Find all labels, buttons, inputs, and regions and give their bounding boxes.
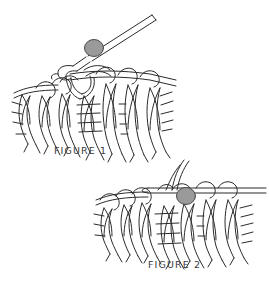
illustration-canvas [0,0,269,284]
canvas-background [0,0,269,284]
figure-1-caption: FIGURE 1 [54,145,107,156]
stitch-marker-figure-2 [177,188,196,205]
knitting-illustration: FIGURE 1 FIGURE 2 [0,0,269,284]
stitch-marker-figure-1 [85,40,104,57]
figure-2-caption: FIGURE 2 [148,259,201,270]
